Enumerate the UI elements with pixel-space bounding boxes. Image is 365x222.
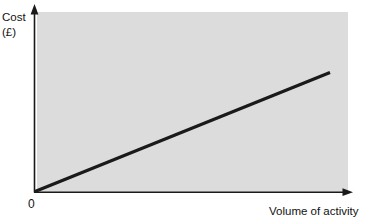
chart-figure: Cost (£) 0 Volume of activity	[0, 0, 365, 222]
origin-tick-label: 0	[28, 197, 35, 211]
chart-canvas	[0, 0, 365, 222]
x-axis-arrow-icon	[343, 188, 354, 196]
y-axis-title-currency: (£)	[2, 25, 32, 40]
x-axis-title: Volume of activity	[269, 204, 358, 218]
y-axis-title: Cost (£)	[2, 10, 32, 40]
variable-cost-line-series	[35, 73, 330, 192]
y-axis-title-cost: Cost	[2, 10, 32, 25]
